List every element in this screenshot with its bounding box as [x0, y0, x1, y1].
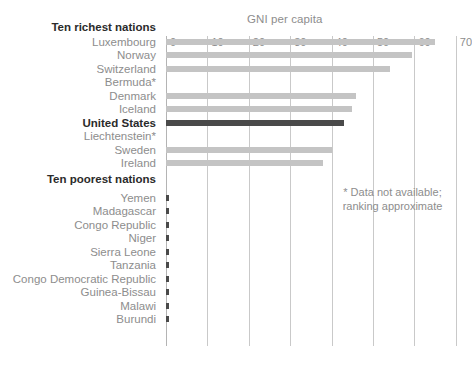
gridline-20	[249, 36, 250, 346]
x-tick-label-70: 70	[460, 36, 472, 49]
gridline-10	[207, 36, 208, 346]
category-label-bermuda: Bermuda*	[105, 76, 156, 89]
category-label-sierra-leone: Sierra Leone	[90, 246, 156, 259]
category-label-norway: Norway	[117, 49, 156, 62]
category-label-sweden: Sweden	[114, 144, 156, 157]
category-label-liechtenstein: Liechtenstein*	[84, 130, 156, 143]
category-label-denmark: Denmark	[109, 90, 156, 103]
bar-switzerland	[166, 66, 390, 72]
category-label-luxembourg: Luxembourg	[92, 36, 156, 49]
category-label-niger: Niger	[129, 232, 156, 245]
bar-ireland	[166, 160, 323, 166]
group-heading-ten-richest-nations: Ten richest nations	[51, 21, 156, 34]
category-label-switzerland: Switzerland	[97, 63, 156, 76]
bar-malawi	[166, 303, 169, 309]
bar-denmark	[166, 93, 356, 99]
bar-tanzania	[166, 262, 169, 268]
footnote-line-2: ranking approximate	[325, 199, 460, 213]
category-label-congo-republic: Congo Republic	[74, 219, 156, 232]
footnote-note: * Data not available; ranking approximat…	[325, 185, 460, 213]
gridline-30	[290, 36, 291, 346]
footnote-line-1: * Data not available;	[325, 185, 460, 199]
bar-niger	[166, 235, 169, 241]
bar-united-states	[166, 120, 344, 126]
bar-burundi	[166, 316, 169, 322]
bar-guinea-bissau	[166, 289, 169, 295]
bar-iceland	[166, 106, 352, 112]
gridline-0	[166, 36, 167, 346]
bar-luxembourg	[166, 39, 435, 45]
bar-norway	[166, 52, 412, 58]
bar-madagascar	[166, 208, 169, 214]
bar-sweden	[166, 147, 332, 153]
category-label-united-states: United States	[83, 117, 157, 130]
bar-congo-republic	[166, 222, 169, 228]
category-label-guinea-bissau: Guinea-Bissau	[81, 286, 156, 299]
category-label-ireland: Ireland	[121, 157, 156, 170]
category-label-tanzania: Tanzania	[110, 259, 156, 272]
bar-sierra-leone	[166, 249, 169, 255]
category-label-malawi: Malawi	[120, 300, 156, 313]
category-label-burundi: Burundi	[116, 313, 156, 326]
category-label-madagascar: Madagascar	[93, 205, 156, 218]
category-label-iceland: Iceland	[119, 103, 156, 116]
group-heading-ten-poorest-nations: Ten poorest nations	[47, 173, 156, 186]
category-label-congo-democratic-republic: Congo Democratic Republic	[13, 273, 156, 286]
chart-title: GNI per capita	[247, 13, 323, 25]
category-label-yemen: Yemen	[121, 192, 156, 205]
bar-congo-democratic-republic	[166, 276, 169, 282]
bar-yemen	[166, 195, 169, 201]
